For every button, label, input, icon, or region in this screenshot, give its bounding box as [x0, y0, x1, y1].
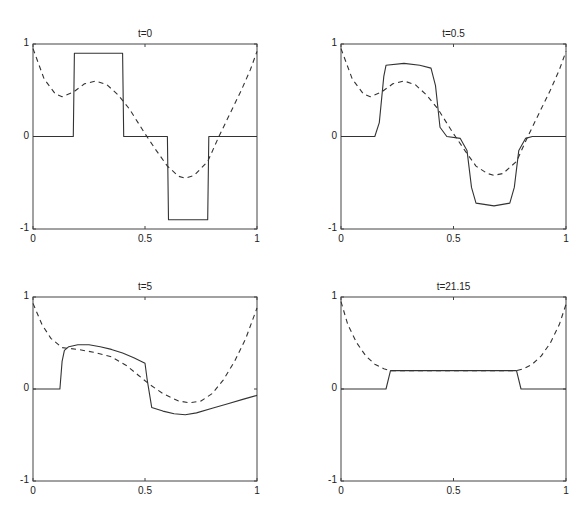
- y-tick-label: 0: [319, 130, 337, 141]
- plot-area: [341, 297, 566, 481]
- solid-series-line: [341, 371, 566, 389]
- dashed-series-line: [33, 303, 257, 402]
- subplot-title: t=0: [33, 28, 257, 39]
- y-tick-label: -1: [11, 474, 29, 485]
- x-tick-label: 0.5: [442, 485, 466, 496]
- subplot-t5: t=500.51-101: [33, 297, 257, 481]
- dashed-series-line: [341, 302, 566, 371]
- axes-box: [33, 297, 257, 481]
- x-tick-label: 1: [245, 233, 269, 244]
- plot-area: [33, 297, 257, 481]
- dashed-series-line: [33, 49, 257, 179]
- x-tick-label: 0.5: [133, 233, 157, 244]
- x-tick-label: 1: [554, 233, 578, 244]
- y-tick-label: 1: [319, 37, 337, 48]
- solid-series-line: [33, 53, 257, 220]
- subplot-t0-5: t=0.500.51-101: [341, 44, 566, 229]
- x-tick-label: 0.5: [133, 485, 157, 496]
- y-tick-label: -1: [319, 222, 337, 233]
- y-tick-label: 1: [11, 37, 29, 48]
- x-tick-label: 1: [554, 485, 578, 496]
- dashed-series-line: [341, 49, 566, 176]
- subplot-title: t=5: [33, 281, 257, 292]
- plot-area: [33, 44, 257, 229]
- subplot-title: t=21.15: [341, 281, 566, 292]
- subplot-t21-15: t=21.1500.51-101: [341, 297, 566, 481]
- subplot-t0: t=000.51-101: [33, 44, 257, 229]
- y-tick-label: 0: [319, 382, 337, 393]
- x-tick-label: 0.5: [442, 233, 466, 244]
- x-tick-label: 0: [329, 233, 353, 244]
- y-tick-label: 1: [319, 290, 337, 301]
- x-tick-label: 0: [21, 233, 45, 244]
- subplot-title: t=0.5: [341, 28, 566, 39]
- y-tick-label: 0: [11, 382, 29, 393]
- y-tick-label: -1: [11, 222, 29, 233]
- x-tick-label: 0: [21, 485, 45, 496]
- y-tick-label: 1: [11, 290, 29, 301]
- y-tick-label: 0: [11, 130, 29, 141]
- x-tick-label: 1: [245, 485, 269, 496]
- y-tick-label: -1: [319, 474, 337, 485]
- x-tick-label: 0: [329, 485, 353, 496]
- plot-area: [341, 44, 566, 229]
